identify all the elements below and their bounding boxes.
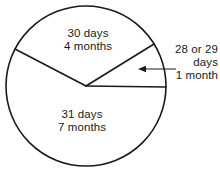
pie-chart: 30 days 4 months 31 days 7 months 28 or … [0,0,220,173]
slice-label-30-days: 30 days 4 months [0,27,176,53]
slice-label-28-or-29-days-line3: 1 month [175,69,218,82]
slice-label-30-days-line1: 30 days [0,27,176,40]
slice-label-31-days-line1: 31 days [0,108,164,121]
slice-label-28-or-29-days-line1: 28 or 29 [175,43,218,56]
slice-label-31-days-line2: 7 months [0,121,164,134]
slice-label-30-days-line2: 4 months [0,40,176,53]
slice-label-28-or-29-days-line2: days [175,56,218,69]
pie-chart-graphic [0,0,220,173]
slice-divider-horizontal-right [86,86,166,87]
slice-label-31-days: 31 days 7 months [0,108,164,134]
slice-label-28-or-29-days: 28 or 29 days 1 month [175,43,218,83]
